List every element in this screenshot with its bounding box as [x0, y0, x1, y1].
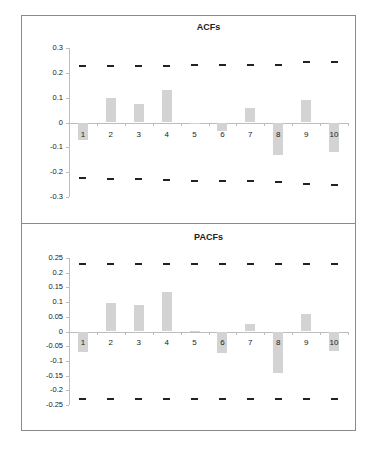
x-tick [292, 332, 293, 335]
y-tick [66, 273, 69, 274]
x-tick [69, 332, 70, 335]
lower-bound-marker [79, 398, 86, 400]
lower-bound-marker [275, 181, 282, 183]
y-tick-label: 0.3 [29, 43, 63, 52]
x-tick-label: 7 [240, 130, 260, 139]
lower-bound-marker [163, 398, 170, 400]
x-tick-label: 1 [73, 338, 93, 347]
x-tick [153, 123, 154, 126]
x-tick-label: 5 [185, 130, 205, 139]
y-tick-label: -0.3 [29, 192, 63, 201]
x-tick [97, 123, 98, 126]
y-tick [66, 48, 69, 49]
y-tick-label: 0 [29, 118, 63, 127]
bar [162, 90, 172, 122]
lower-bound-marker [331, 398, 338, 400]
lower-bound-marker [275, 398, 282, 400]
x-tick [209, 332, 210, 335]
upper-bound-marker [135, 65, 142, 67]
y-tick [66, 361, 69, 362]
upper-bound-marker [79, 65, 86, 67]
chart-divider [21, 223, 356, 224]
upper-bound-marker [219, 263, 226, 265]
lower-bound-marker [219, 180, 226, 182]
bar [134, 305, 144, 331]
x-tick-label: 3 [129, 338, 149, 347]
x-tick-label: 8 [268, 338, 288, 347]
bar [301, 100, 311, 122]
bar [190, 331, 200, 332]
upper-bound-marker [107, 263, 114, 265]
upper-bound-marker [163, 263, 170, 265]
x-tick [264, 332, 265, 335]
x-tick [125, 332, 126, 335]
x-tick [320, 332, 321, 335]
x-tick-label: 2 [101, 130, 121, 139]
x-tick [236, 123, 237, 126]
bar [301, 314, 311, 331]
upper-bound-marker [275, 263, 282, 265]
y-tick-label: -0.25 [29, 400, 63, 409]
x-tick-label: 6 [212, 130, 232, 139]
upper-bound-marker [163, 65, 170, 67]
bar [106, 303, 116, 332]
y-tick [66, 346, 69, 347]
x-tick-label: 4 [157, 338, 177, 347]
lower-bound-marker [247, 180, 254, 182]
lower-bound-marker [163, 179, 170, 181]
bar [245, 324, 255, 332]
chart-title: PACFs [149, 232, 269, 242]
lower-bound-marker [107, 178, 114, 180]
chart-title: ACFs [149, 22, 269, 32]
y-tick [66, 390, 69, 391]
y-tick-label: -0.2 [29, 385, 63, 394]
y-tick-label: 0.2 [29, 68, 63, 77]
x-tick-label: 9 [296, 338, 316, 347]
x-tick-label: 3 [129, 130, 149, 139]
x-tick-label: 6 [212, 338, 232, 347]
upper-bound-marker [247, 263, 254, 265]
x-tick [320, 123, 321, 126]
x-tick-label: 5 [185, 338, 205, 347]
y-tick-label: -0.05 [29, 341, 63, 350]
y-tick-label: 0.25 [29, 253, 63, 262]
y-tick-label: -0.1 [29, 142, 63, 151]
y-tick-label: -0.2 [29, 167, 63, 176]
upper-bound-marker [275, 64, 282, 66]
x-tick [236, 332, 237, 335]
x-tick-label: 10 [324, 130, 344, 139]
lower-bound-marker [219, 398, 226, 400]
lower-bound-marker [303, 183, 310, 185]
x-tick [292, 123, 293, 126]
upper-bound-marker [135, 263, 142, 265]
x-tick [69, 123, 70, 126]
x-tick [125, 123, 126, 126]
y-tick [66, 287, 69, 288]
x-tick-label: 8 [268, 130, 288, 139]
x-tick [264, 123, 265, 126]
y-tick [66, 405, 69, 406]
y-tick-label: -0.1 [29, 356, 63, 365]
upper-bound-marker [303, 61, 310, 63]
upper-bound-marker [107, 65, 114, 67]
bar [162, 292, 172, 332]
upper-bound-marker [247, 64, 254, 66]
x-tick [209, 123, 210, 126]
lower-bound-marker [331, 184, 338, 186]
y-tick [66, 147, 69, 148]
lower-bound-marker [191, 180, 198, 182]
bar [245, 108, 255, 122]
x-tick [181, 123, 182, 126]
upper-bound-marker [331, 61, 338, 63]
x-tick [153, 332, 154, 335]
x-tick-label: 4 [157, 130, 177, 139]
lower-bound-marker [247, 398, 254, 400]
y-tick-label: 0.1 [29, 93, 63, 102]
upper-bound-marker [191, 263, 198, 265]
lower-bound-marker [135, 398, 142, 400]
x-tick-label: 7 [240, 338, 260, 347]
upper-bound-marker [303, 263, 310, 265]
x-tick [348, 123, 349, 126]
y-tick-label: 0.05 [29, 312, 63, 321]
lower-bound-marker [107, 398, 114, 400]
